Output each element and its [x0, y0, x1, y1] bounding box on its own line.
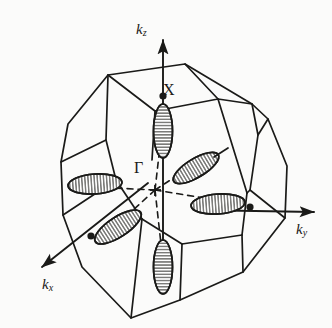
- axis-label-ky: ky: [296, 222, 307, 238]
- point-kx-marker: [87, 232, 94, 239]
- ellipsoid-ky-positive: [190, 192, 245, 216]
- zone-face-lower-front: [131, 111, 242, 318]
- axis-label-kz: kz: [136, 22, 147, 38]
- point-label-gamma: Γ: [134, 160, 143, 176]
- ellipsoid-ky-negative: [67, 172, 122, 196]
- point-ky-marker: [246, 203, 253, 210]
- zone-face-top: [108, 64, 252, 111]
- ellipsoid-kz-negative: [152, 240, 174, 294]
- ellipsoid-kx-negative: [90, 204, 146, 250]
- axis-label-kx: kx: [42, 277, 53, 293]
- point-label-x: X: [163, 82, 175, 98]
- zone-face-upper-right: [218, 99, 285, 272]
- ellipsoid-kx-positive: [169, 146, 224, 189]
- brillouin-zone-figure: kz kx ky Γ X: [0, 0, 332, 328]
